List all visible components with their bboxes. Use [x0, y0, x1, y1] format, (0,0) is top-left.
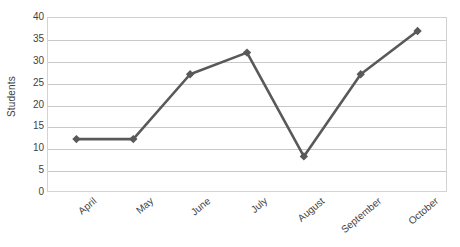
- x-axis-tick-labels: AprilMayJuneJulyAugustSeptemberOctober: [47, 192, 447, 247]
- y-axis-tick: 35: [18, 34, 44, 44]
- y-axis-tick: 20: [18, 100, 44, 110]
- y-axis-tick: 10: [18, 143, 44, 153]
- line-chart: Students 0510152025303540 AprilMayJuneJu…: [0, 0, 460, 247]
- y-axis-tick: 30: [18, 56, 44, 66]
- y-axis-tick: 15: [18, 121, 44, 131]
- x-axis-tick: September: [340, 196, 384, 235]
- x-axis-tick: May: [134, 196, 155, 216]
- y-axis-tick: 40: [18, 12, 44, 22]
- x-axis-tick: October: [407, 196, 441, 227]
- plot-area: [47, 17, 447, 192]
- y-axis-tick-labels: 0510152025303540: [18, 0, 44, 192]
- x-axis-tick: August: [296, 196, 326, 224]
- x-axis-tick: June: [189, 196, 212, 218]
- y-axis-tick: 25: [18, 78, 44, 88]
- y-axis-tick: 5: [18, 165, 44, 175]
- x-axis-tick: April: [76, 196, 98, 217]
- y-axis-title-label: Students: [7, 75, 18, 116]
- x-axis-tick: July: [249, 196, 269, 215]
- y-axis-tick: 0: [18, 187, 44, 197]
- data-series-students: [48, 18, 446, 191]
- data-point-marker: [72, 135, 80, 143]
